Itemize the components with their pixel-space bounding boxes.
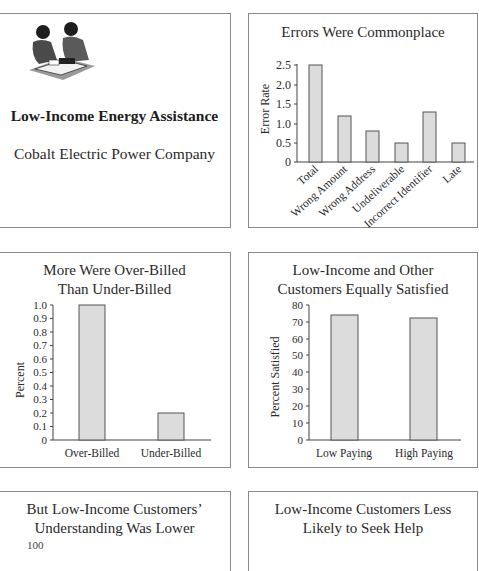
cover-title: Low-Income Energy Assistance <box>0 107 230 125</box>
y-tick: 1.0 <box>276 117 291 131</box>
chart-title-line: Low-Income and Other <box>249 261 477 280</box>
y-tick: 0.3 <box>33 393 47 405</box>
y-tick: 0.6 <box>33 353 47 365</box>
y-tick: 2.5 <box>276 58 291 72</box>
two-people-at-table-illustration <box>23 20 103 82</box>
x-tick-label: Late <box>440 163 463 186</box>
bar-high-paying <box>410 318 437 440</box>
y-tick: 0.1 <box>33 420 47 432</box>
chart-panel-understanding: But Low-Income Customers’ Understanding … <box>0 491 231 571</box>
cover-subtitle: Cobalt Electric Power Company <box>0 145 230 163</box>
x-tick-label: Total <box>295 163 320 188</box>
chart-title-line: More Were Over-Billed <box>0 261 230 280</box>
chart-title: Errors Were Commonplace <box>249 23 477 42</box>
bar-low-paying <box>331 315 358 440</box>
bar-under-billed <box>158 413 184 440</box>
bar-undeliverable <box>395 143 408 162</box>
chart-title-line: But Low-Income Customers’ <box>0 500 230 519</box>
chart-title: But Low-Income Customers’ Understanding … <box>0 500 230 538</box>
billing-bar-chart: Percent 0 0.1 0.2 0.3 0.4 0.5 0.6 0.7 0.… <box>0 297 232 467</box>
chart-panel-billing: More Were Over-Billed Than Under-Billed … <box>0 252 231 468</box>
chart-title-line: Low-Income Customers Less <box>249 500 477 519</box>
y-tick: 0 <box>42 434 48 446</box>
y-tick: 40 <box>292 366 304 378</box>
x-tick-label: High Paying <box>395 447 453 460</box>
y-tick: 0.7 <box>33 339 47 351</box>
y-tick: 0.2 <box>33 407 47 419</box>
bar-incorrect-identifier <box>423 112 436 162</box>
y-tick: 0.5 <box>276 136 291 150</box>
chart-title: Low-Income Customers Less Likely to Seek… <box>249 500 477 538</box>
chart-title: More Were Over-Billed Than Under-Billed <box>0 261 230 299</box>
y-tick: 2.0 <box>276 78 291 92</box>
chart-panel-satisfaction: Low-Income and Other Customers Equally S… <box>248 252 478 468</box>
y-tick: 1.0 <box>33 299 47 311</box>
bar-wrong-address <box>366 131 379 162</box>
x-tick-label: Over-Billed <box>65 447 120 459</box>
y-tick: 0.8 <box>33 326 47 338</box>
y-tick: 0.5 <box>33 366 47 378</box>
y-tick: 0 <box>298 434 304 446</box>
bar-total <box>309 65 322 162</box>
chart-panel-errors: Errors Were Commonplace Error Rate 0 0.5… <box>248 13 478 228</box>
satisfaction-bar-chart: Percent Satisfied 0 10 20 30 40 50 60 70… <box>249 297 479 467</box>
y-tick: 0.9 <box>33 312 47 324</box>
y-axis-label: Percent Satisfied <box>268 337 282 418</box>
y-tick: 50 <box>292 349 304 361</box>
y-axis-label: Error Rate <box>258 84 272 134</box>
bar-wrong-amount <box>338 116 351 162</box>
chart-title: Low-Income and Other Customers Equally S… <box>249 261 477 299</box>
y-tick: 70 <box>292 316 304 328</box>
y-tick: 0.4 <box>33 380 47 392</box>
chart-title-line: Likely to Seek Help <box>249 519 477 538</box>
chart-panel-seek-help: Low-Income Customers Less Likely to Seek… <box>248 491 478 571</box>
y-tick: 100 <box>27 539 44 551</box>
errors-bar-chart: Error Rate 0 0.5 1.0 1.5 2.0 2.5 Total W… <box>249 44 479 229</box>
y-tick: 10 <box>292 417 304 429</box>
y-axis-label: Percent <box>13 361 27 398</box>
bar-late <box>452 143 465 162</box>
bar-over-billed <box>79 305 105 440</box>
y-tick: 30 <box>292 383 304 395</box>
y-tick: 60 <box>292 333 304 345</box>
x-tick-label: Low Paying <box>316 447 372 460</box>
y-tick: 0 <box>285 155 291 169</box>
y-tick: 1.5 <box>276 97 291 111</box>
y-tick: 20 <box>292 400 304 412</box>
y-tick: 80 <box>292 299 304 311</box>
cover-panel: Low-Income Energy Assistance Cobalt Elec… <box>0 13 231 228</box>
chart-title-line: Understanding Was Lower <box>0 519 230 538</box>
x-tick-label: Under-Billed <box>141 447 202 459</box>
